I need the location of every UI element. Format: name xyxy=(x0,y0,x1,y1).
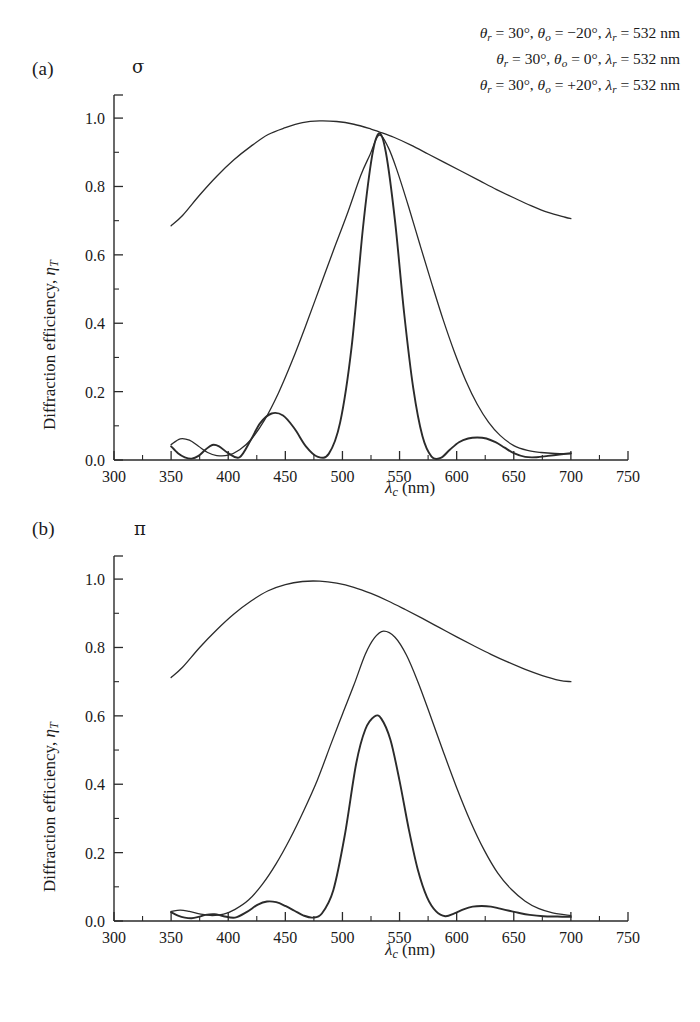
x-tick-label: 350 xyxy=(159,929,183,946)
x-tick-label: 750 xyxy=(616,468,640,485)
panel-b-label: (b) xyxy=(32,518,55,540)
panel-a: (a) σ θr = 30°, θo = −20°, λr = 532 nm θ… xyxy=(0,0,700,512)
x-tick-label: 350 xyxy=(159,468,183,485)
y-tick-label: 0.6 xyxy=(85,708,105,725)
panel-b-y-axis-label: Diffraction efficiency, ηT xyxy=(40,722,62,892)
y-tick-label: 0.8 xyxy=(85,178,105,195)
x-tick-label: 300 xyxy=(102,929,126,946)
curve-series-0 xyxy=(171,581,571,682)
x-tick-label: 600 xyxy=(445,929,469,946)
panel-a-polarization-symbol: σ xyxy=(132,56,144,77)
x-tick-label: 500 xyxy=(330,929,354,946)
x-tick-label: 400 xyxy=(216,929,240,946)
curve-series-2 xyxy=(171,715,571,918)
curve-series-2 xyxy=(171,133,571,459)
curve-series-0 xyxy=(171,121,571,226)
y-tick-label: 0.6 xyxy=(85,247,105,264)
panel-b-plot: 3003504004505005506006507007500.00.20.40… xyxy=(0,500,700,980)
x-tick-label: 450 xyxy=(273,929,297,946)
panel-a-x-axis-label: λc (nm) xyxy=(385,478,435,500)
x-tick-label: 400 xyxy=(216,468,240,485)
y-tick-label: 0.0 xyxy=(85,452,105,469)
legend-item-0: θr = 30°, θo = −20°, λr = 532 nm xyxy=(480,22,680,48)
x-tick-label: 700 xyxy=(559,929,583,946)
panel-b-polarization-symbol: π xyxy=(134,518,146,539)
y-tick-label: 1.0 xyxy=(85,571,105,588)
y-tick-label: 0.8 xyxy=(85,639,105,656)
y-tick-label: 0.2 xyxy=(85,384,105,401)
x-tick-label: 700 xyxy=(559,468,583,485)
x-tick-label: 750 xyxy=(616,929,640,946)
y-tick-label: 0.0 xyxy=(85,913,105,930)
panel-a-label: (a) xyxy=(32,58,54,80)
y-tick-label: 0.4 xyxy=(85,315,105,332)
curve-series-1 xyxy=(171,631,571,915)
panel-b-x-axis-label: λc (nm) xyxy=(385,940,435,962)
x-tick-label: 600 xyxy=(445,468,469,485)
x-tick-label: 650 xyxy=(502,468,526,485)
y-tick-label: 0.2 xyxy=(85,845,105,862)
y-tick-label: 0.4 xyxy=(85,776,105,793)
x-tick-label: 500 xyxy=(330,468,354,485)
y-tick-label: 1.0 xyxy=(85,110,105,127)
panel-a-y-axis-label: Diffraction efficiency, ηT xyxy=(40,260,62,430)
legend-item-2: θr = 30°, θo = +20°, λr = 532 nm xyxy=(480,74,680,100)
x-tick-label: 300 xyxy=(102,468,126,485)
figure-root: (a) σ θr = 30°, θo = −20°, λr = 532 nm θ… xyxy=(0,0,700,1022)
curve-series-1 xyxy=(171,135,571,456)
x-tick-label: 450 xyxy=(273,468,297,485)
panel-b: (b) π Diffraction efficiency, ηT λc (nm)… xyxy=(0,500,700,1022)
legend-panel-a: θr = 30°, θo = −20°, λr = 532 nm θr = 30… xyxy=(480,22,680,100)
legend-item-1: θr = 30°, θo = 0°, λr = 532 nm xyxy=(480,48,680,74)
x-tick-label: 650 xyxy=(502,929,526,946)
